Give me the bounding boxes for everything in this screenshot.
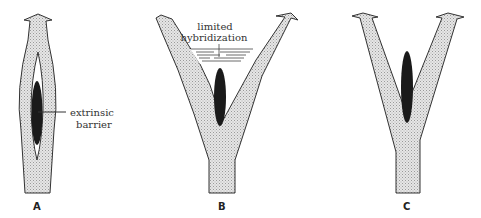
extrinsic-barrier-a — [32, 81, 43, 145]
label-limited: limited — [197, 21, 233, 32]
panel-label-c: C — [403, 201, 410, 212]
barrier-b — [214, 68, 226, 126]
label-extrinsic: extrinsic — [70, 107, 114, 118]
barrier-c — [401, 51, 413, 123]
panel-label-a: A — [33, 201, 41, 212]
panel-label-b: B — [218, 201, 226, 212]
panel-b: limited hybridization B — [156, 13, 298, 212]
panel-c: C — [352, 13, 464, 212]
speciation-diagram: extrinsic barrier A limited hybridizatio… — [0, 0, 481, 218]
panel-a: extrinsic barrier A — [19, 14, 114, 212]
label-barrier: barrier — [76, 119, 112, 130]
label-hybridization: hybridization — [181, 32, 249, 43]
hybrid-zone-b — [190, 49, 256, 64]
